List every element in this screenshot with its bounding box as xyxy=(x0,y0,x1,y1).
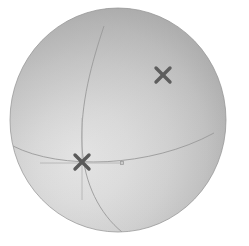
sphere-visualization-canvas xyxy=(0,0,249,246)
sphere-shading-overlay xyxy=(10,8,226,232)
sphere-scene xyxy=(0,0,249,246)
